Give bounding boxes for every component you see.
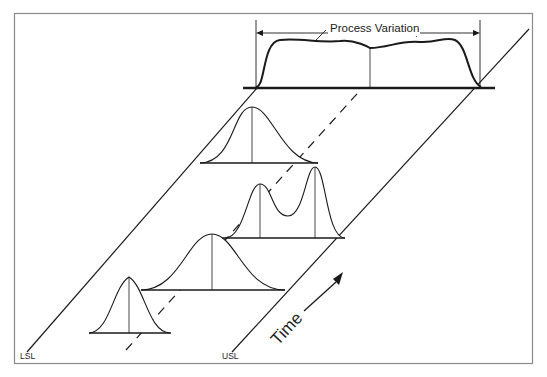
time-arrow [304,282,336,311]
diagram-canvas: Process Variation LSL USL Time [0,0,547,377]
process-variation-diagram: Process Variation LSL USL Time [0,0,547,377]
usl-label: USL [222,351,239,361]
process-variation-label: Process Variation [330,22,419,34]
distribution-combined-flat [243,39,495,88]
lsl-label: LSL [20,351,35,361]
time-label: Time [267,309,306,349]
distribution-wide-normal [141,234,285,290]
distribution-bimodal [222,167,345,238]
distribution-normal [200,107,318,163]
